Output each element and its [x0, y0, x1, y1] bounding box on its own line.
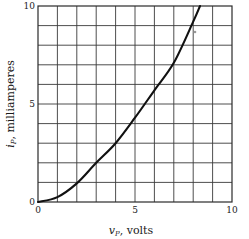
- y-tick-label: 5: [29, 99, 35, 109]
- y-axis-label: iP, milliamperes: [4, 60, 18, 148]
- y-tick-label: 0: [29, 197, 35, 207]
- grid: [38, 6, 232, 202]
- x-tick-labels: 0510: [35, 205, 238, 215]
- x-axis-label: vP, volts: [109, 224, 154, 238]
- artifact-speck: [194, 31, 197, 34]
- x-tick-label: 10: [226, 205, 238, 215]
- x-tick-label: 0: [35, 205, 41, 215]
- y-tick-labels: 0510: [24, 1, 36, 207]
- chart: 0510 0510 vP, volts iP, milliamperes: [0, 0, 249, 239]
- y-tick-label: 10: [24, 1, 36, 11]
- x-tick-label: 5: [132, 205, 138, 215]
